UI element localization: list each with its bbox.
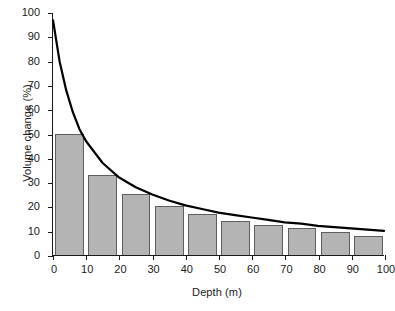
x-tick-label: 0 [51, 263, 57, 275]
x-tick: 80 [319, 255, 320, 260]
bar [254, 225, 283, 255]
y-tick-label: 0 [34, 249, 40, 261]
x-tick: 100 [385, 255, 386, 260]
x-axis-title: Depth (m) [48, 286, 386, 298]
x-tick-label: 100 [377, 263, 395, 275]
y-tick-label: 90 [28, 30, 40, 42]
plot-area: 0102030405060708090100 01020304050607080… [52, 13, 384, 256]
y-tick-label: 100 [22, 6, 40, 18]
y-tick: 90 [48, 37, 53, 38]
x-tick: 70 [285, 255, 286, 260]
x-tick-label: 10 [81, 263, 93, 275]
y-tick: 60 [48, 110, 53, 111]
x-tick-label: 60 [247, 263, 259, 275]
y-tick-label: 70 [28, 79, 40, 91]
x-tick: 0 [53, 255, 54, 260]
y-tick: 20 [48, 207, 53, 208]
y-tick: 50 [48, 135, 53, 136]
x-tick: 60 [252, 255, 253, 260]
y-tick-label: 30 [28, 176, 40, 188]
x-tick: 40 [186, 255, 187, 260]
x-tick-label: 70 [280, 263, 292, 275]
bar [88, 175, 117, 255]
bar [188, 214, 217, 255]
bar [321, 232, 350, 255]
y-tick: 100 [48, 13, 53, 14]
bar [155, 206, 184, 255]
x-tick-label: 90 [347, 263, 359, 275]
x-tick-label: 20 [114, 263, 126, 275]
bar [122, 194, 151, 255]
y-tick-label: 60 [28, 103, 40, 115]
y-tick-label: 40 [28, 152, 40, 164]
x-tick-label: 40 [181, 263, 193, 275]
y-tick-label: 10 [28, 225, 40, 237]
y-tick-label: 20 [28, 200, 40, 212]
x-tick: 90 [352, 255, 353, 260]
y-tick: 70 [48, 86, 53, 87]
y-tick-label: 50 [28, 128, 40, 140]
x-tick: 20 [119, 255, 120, 260]
y-tick-label: 80 [28, 55, 40, 67]
x-tick-label: 80 [313, 263, 325, 275]
bar [288, 228, 317, 255]
x-tick: 50 [219, 255, 220, 260]
x-tick: 30 [153, 255, 154, 260]
bar [55, 134, 84, 256]
bar [354, 236, 383, 255]
bar [221, 221, 250, 255]
y-tick: 10 [48, 232, 53, 233]
x-tick: 10 [86, 255, 87, 260]
x-tick-label: 50 [214, 263, 226, 275]
y-tick: 80 [48, 62, 53, 63]
x-tick-label: 30 [147, 263, 159, 275]
y-tick: 40 [48, 159, 53, 160]
y-tick: 30 [48, 183, 53, 184]
